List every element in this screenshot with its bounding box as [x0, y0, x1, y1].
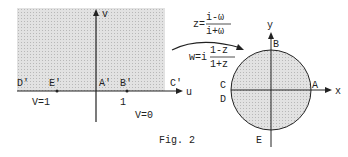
y-axis-arrow-icon [268, 32, 274, 39]
label-d-prime: D' [17, 78, 29, 89]
mapping-arrow-head-icon [236, 44, 244, 50]
x-axis-arrow-icon [325, 87, 332, 93]
w-formula-numerator: 1-z [210, 45, 228, 56]
point-e-prime [56, 90, 59, 93]
figure-canvas: v D' E' A' B' C' V=1 1 V=0 u z= i-ω i+ω … [0, 0, 348, 157]
y-axis-label: y [267, 20, 273, 31]
label-d: D [220, 94, 226, 105]
label-c: C [220, 80, 226, 91]
label-v-eq-1: V=1 [32, 97, 50, 108]
figure-caption: Fig. 2 [159, 135, 195, 146]
z-formula-denominator: i+ω [206, 26, 224, 37]
u-axis-label: u [186, 87, 192, 98]
upper-half-plane-shading [17, 8, 165, 91]
z-formula-lhs: z= [193, 19, 205, 30]
label-a: A [312, 80, 318, 91]
label-a-prime: A' [99, 78, 111, 89]
point-b-prime [126, 90, 129, 93]
label-c-prime: C' [170, 78, 182, 89]
label-e: E [256, 135, 262, 146]
x-axis-label: x [335, 86, 341, 97]
tick-label-one: 1 [120, 97, 126, 108]
label-b-prime: B' [120, 78, 132, 89]
v-axis-label: v [102, 9, 108, 20]
label-v-eq-0: V=0 [135, 110, 153, 121]
mapping-arrow [172, 42, 241, 50]
w-formula-lhs: w=i [189, 52, 207, 63]
label-e-prime: E' [49, 78, 61, 89]
z-formula-numerator: i-ω [206, 12, 224, 23]
w-formula-denominator: 1+z [210, 59, 228, 70]
label-b: B [273, 39, 279, 50]
